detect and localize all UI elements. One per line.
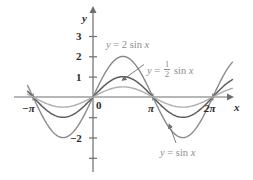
label-2sinx-lhs: y bbox=[106, 39, 111, 50]
label-half-eq: = bbox=[154, 65, 160, 76]
fraction-numerator: 1 bbox=[164, 60, 171, 69]
y-tick-label-2: 2 bbox=[76, 51, 82, 62]
curve-label-half-sinx: y = 1 2 sin x bbox=[147, 60, 194, 80]
axes bbox=[14, 12, 228, 172]
y-tick-label-minus-2: −2 bbox=[70, 133, 82, 144]
label-half-fraction: 1 2 bbox=[164, 60, 171, 80]
x-tick-label-minus-pi: −π bbox=[22, 103, 35, 114]
curve-label-2sinx: y = 2 sin x bbox=[106, 40, 149, 51]
x-tick-label-pi: π bbox=[148, 103, 154, 114]
curve-label-sinx: y = sin x bbox=[160, 148, 195, 159]
x-tick-label-2pi: 2π bbox=[204, 103, 216, 114]
sine-amplitude-figure: 3 2 1 −2 0 −π π 2π y x y = 2 sin x y = 1… bbox=[0, 0, 253, 180]
label-2sinx-fn: sin bbox=[130, 39, 142, 50]
origin-label: 0 bbox=[96, 100, 102, 111]
label-sinx-var: x bbox=[191, 147, 196, 158]
label-2sinx-var: x bbox=[145, 39, 150, 50]
y-tick-label-3: 3 bbox=[76, 31, 82, 42]
label-2sinx-coef: 2 bbox=[122, 39, 127, 50]
fraction-denominator: 2 bbox=[164, 69, 171, 79]
label-2sinx-eq: = bbox=[113, 39, 119, 50]
label-sinx-fn: sin bbox=[176, 147, 188, 158]
x-axis-label: x bbox=[234, 102, 240, 113]
label-sinx-lhs: y bbox=[160, 147, 165, 158]
y-tick-label-1: 1 bbox=[76, 72, 82, 83]
label-half-fn: sin bbox=[174, 65, 186, 76]
label-half-lhs: y bbox=[147, 65, 152, 76]
plot-canvas bbox=[0, 0, 253, 180]
y-axis-label: y bbox=[82, 13, 87, 24]
label-half-var: x bbox=[189, 65, 194, 76]
label-sinx-eq: = bbox=[167, 147, 173, 158]
